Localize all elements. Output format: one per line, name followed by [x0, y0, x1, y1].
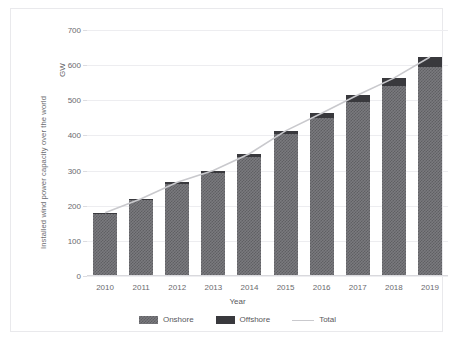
- y-axis-tick-label: 100: [68, 236, 81, 245]
- bar-group[interactable]: 2017: [340, 30, 376, 276]
- bar-segment-onshore[interactable]: [165, 184, 189, 276]
- bar-segment-onshore[interactable]: [237, 157, 261, 276]
- y-axis-tick-label: 0: [77, 272, 81, 281]
- bar-segment-offshore[interactable]: [382, 78, 406, 86]
- stacked-bar[interactable]: [346, 95, 370, 276]
- y-axis-tick-label: 300: [68, 166, 81, 175]
- x-axis-tick-label: 2013: [195, 283, 231, 292]
- x-axis-line: [87, 275, 448, 276]
- offshore-swatch-icon: [216, 316, 235, 324]
- bar-group[interactable]: 2018: [376, 30, 412, 276]
- legend-item-offshore: Offshore: [216, 315, 271, 324]
- stacked-bar[interactable]: [274, 131, 298, 276]
- legend-item-onshore: Onshore: [139, 315, 194, 324]
- bar-segment-offshore[interactable]: [165, 182, 189, 184]
- bar-segment-offshore[interactable]: [346, 95, 370, 102]
- bar-segment-onshore[interactable]: [129, 200, 153, 276]
- bar-segment-onshore[interactable]: [310, 118, 334, 276]
- y-axis-tick-mark: [83, 276, 87, 277]
- x-axis-tick-label: 2015: [268, 283, 304, 292]
- legend-item-total: Total: [292, 315, 336, 324]
- x-axis-tick-label: 2011: [123, 283, 159, 292]
- y-axis-tick-label: 600: [68, 61, 81, 70]
- y-axis-tick-label: 700: [68, 26, 81, 35]
- bar-group[interactable]: 2016: [304, 30, 340, 276]
- bar-segment-offshore[interactable]: [129, 199, 153, 201]
- legend-label-onshore: Onshore: [163, 315, 194, 324]
- bar-segment-offshore[interactable]: [237, 154, 261, 157]
- stacked-bar[interactable]: [93, 213, 117, 276]
- y-axis-title: Installed wind power capacity over the w…: [39, 49, 48, 249]
- x-axis-tick-label: 2016: [304, 283, 340, 292]
- bar-segment-onshore[interactable]: [274, 134, 298, 276]
- bar-segment-offshore[interactable]: [310, 113, 334, 118]
- legend-label-offshore: Offshore: [240, 315, 271, 324]
- chart-legend: Onshore Offshore Total: [11, 315, 453, 324]
- stacked-bar[interactable]: [201, 171, 225, 276]
- stacked-bar[interactable]: [418, 57, 442, 276]
- bar-segment-onshore[interactable]: [418, 67, 442, 276]
- x-axis-tick-label: 2012: [159, 283, 195, 292]
- bar-group[interactable]: 2019: [412, 30, 448, 276]
- y-axis-tick-label: 500: [68, 96, 81, 105]
- bar-segment-offshore[interactable]: [418, 57, 442, 67]
- bar-segment-onshore[interactable]: [382, 86, 406, 276]
- bar-group[interactable]: 2012: [159, 30, 195, 276]
- total-line-swatch-icon: [292, 316, 314, 324]
- x-axis-tick-label: 2014: [231, 283, 267, 292]
- x-axis-tick-label: 2018: [376, 283, 412, 292]
- x-axis-tick-label: 2017: [340, 283, 376, 292]
- stacked-bar[interactable]: [237, 154, 261, 276]
- plot-area: 0100200300400500600700 20102011201220132…: [87, 30, 448, 276]
- stacked-bar[interactable]: [310, 113, 334, 276]
- bar-group[interactable]: 2011: [123, 30, 159, 276]
- bar-segment-onshore[interactable]: [346, 102, 370, 276]
- bar-group[interactable]: 2010: [87, 30, 123, 276]
- chart-frame: GW Installed wind power capacity over th…: [10, 8, 443, 332]
- stacked-bar[interactable]: [129, 199, 153, 276]
- bar-segment-offshore[interactable]: [93, 213, 117, 214]
- legend-label-total: Total: [319, 315, 336, 324]
- y-axis-tick-label: 400: [68, 131, 81, 140]
- bar-segment-onshore[interactable]: [93, 214, 117, 276]
- bar-group[interactable]: 2013: [195, 30, 231, 276]
- bar-group[interactable]: 2014: [231, 30, 267, 276]
- stacked-bar[interactable]: [382, 78, 406, 276]
- bar-segment-offshore[interactable]: [201, 171, 225, 173]
- onshore-swatch-icon: [139, 316, 158, 324]
- gridline: [87, 276, 448, 277]
- x-axis-title: Year: [11, 297, 453, 306]
- x-axis-tick-label: 2019: [412, 283, 448, 292]
- stacked-bar[interactable]: [165, 182, 189, 276]
- bar-group[interactable]: 2015: [268, 30, 304, 276]
- bar-segment-offshore[interactable]: [274, 131, 298, 134]
- x-axis-tick-label: 2010: [87, 283, 123, 292]
- y-axis-unit: GW: [58, 37, 67, 77]
- bar-segment-onshore[interactable]: [201, 173, 225, 276]
- y-axis-tick-label: 200: [68, 201, 81, 210]
